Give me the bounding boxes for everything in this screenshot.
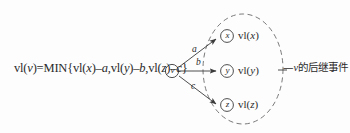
- annotation-text: 的后继事件: [298, 61, 348, 73]
- edge-weight-b: b: [196, 58, 201, 68]
- value-label-y-prefix: vl(: [238, 64, 250, 76]
- value-label-y-suffix: ): [255, 64, 259, 76]
- node-v-label: v: [167, 66, 178, 75]
- formula-part-a: vl(: [14, 61, 27, 75]
- value-label-z-suffix: ): [255, 98, 259, 110]
- formula-part-h: }: [182, 61, 188, 75]
- value-label-y: vl(y): [238, 65, 259, 76]
- formula-part-e: )–: [129, 61, 139, 75]
- node-x-label: x: [222, 31, 233, 40]
- value-label-z-prefix: vl(: [238, 98, 250, 110]
- value-label-x: vl(x): [238, 30, 259, 41]
- formula-part-d: ,vl(: [108, 61, 124, 75]
- value-label-x-prefix: vl(: [238, 29, 250, 41]
- value-label-x-suffix: ): [255, 29, 259, 41]
- formula-part-c: )–: [92, 61, 102, 75]
- node-y-label: y: [222, 66, 233, 75]
- formula-part-f: ,vl(: [145, 61, 161, 75]
- edge-v-to-z: [179, 76, 216, 104]
- latest-time-formula: vl(v)=MIN{vl(x)–a,vl(y)–b,vl(z)–c}: [14, 62, 187, 75]
- annotation-dash: —: [283, 61, 294, 73]
- successor-events-annotation: —v的后继事件: [283, 62, 348, 74]
- formula-part-b: )=MIN{vl(: [33, 61, 87, 75]
- node-z-label: z: [222, 100, 233, 109]
- edge-weight-c: c: [191, 82, 195, 92]
- value-label-z: vl(z): [238, 99, 258, 110]
- vertex-latest-time-diagram: vl(v)=MIN{vl(x)–a,vl(y)–b,vl(z)–c} v x y…: [0, 0, 350, 133]
- edge-weight-a: a: [192, 45, 197, 55]
